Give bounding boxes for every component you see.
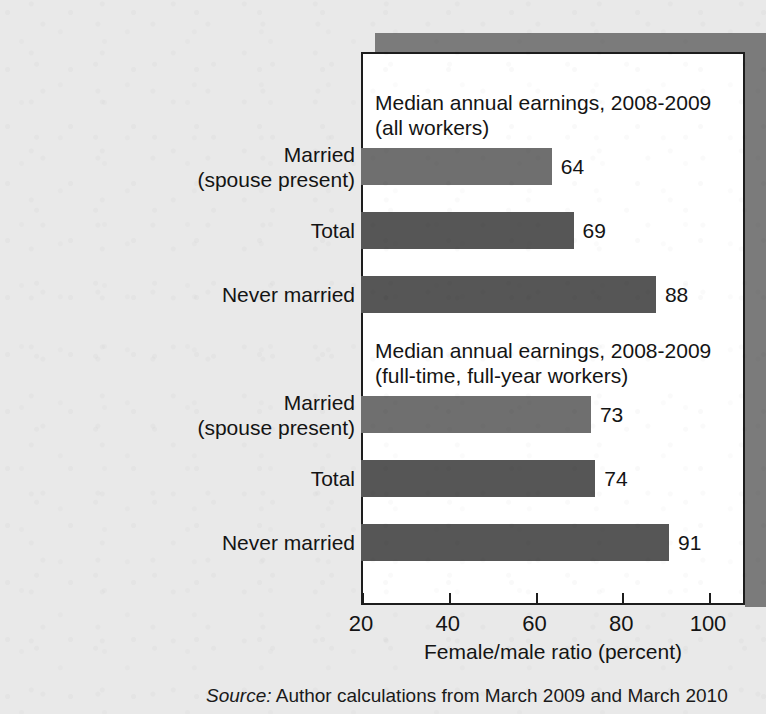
category-axis: Married (spouse present)TotalNever marri… [0,52,355,605]
source-text: Author calculations from March 2009 and … [271,685,727,706]
x-tick-label: 60 [522,611,546,637]
bar-value-label: 88 [665,276,688,313]
bar [361,148,552,185]
bar-value-label: 64 [561,148,584,185]
x-tick-mark [622,593,624,604]
bar [361,460,595,497]
bar-value-label: 69 [583,212,606,249]
panel-shadow-right [745,33,766,607]
bar-value-label: 73 [600,396,623,433]
bar [361,524,669,561]
source-keyword: Source: [206,685,271,706]
group-heading: Median annual earnings, 2008-2009 (all w… [375,90,711,140]
category-label: Total [311,466,355,491]
category-label: Never married [222,530,355,555]
category-label: Married (spouse present) [197,390,355,440]
x-axis-title: Female/male ratio (percent) [361,640,745,664]
bar-value-label: 91 [678,524,701,561]
category-label: Total [311,218,355,243]
source-note: Source: Author calculations from March 2… [206,684,728,708]
x-tick-mark [449,593,451,604]
x-tick-mark [362,593,364,604]
bar-chart-figure: Married (spouse present)TotalNever marri… [0,0,766,714]
x-tick-label: 100 [690,611,727,637]
group-heading: Median annual earnings, 2008-2009 (full-… [375,338,711,388]
bar [361,276,656,313]
bar [361,212,574,249]
x-tick-mark [709,593,711,604]
x-tick-mark [536,593,538,604]
bar-value-label: 74 [604,460,627,497]
bar [361,396,591,433]
category-label: Married (spouse present) [197,142,355,192]
category-label: Never married [222,282,355,307]
x-tick-label: 20 [349,611,373,637]
x-tick-label: 40 [436,611,460,637]
x-tick-label: 80 [609,611,633,637]
